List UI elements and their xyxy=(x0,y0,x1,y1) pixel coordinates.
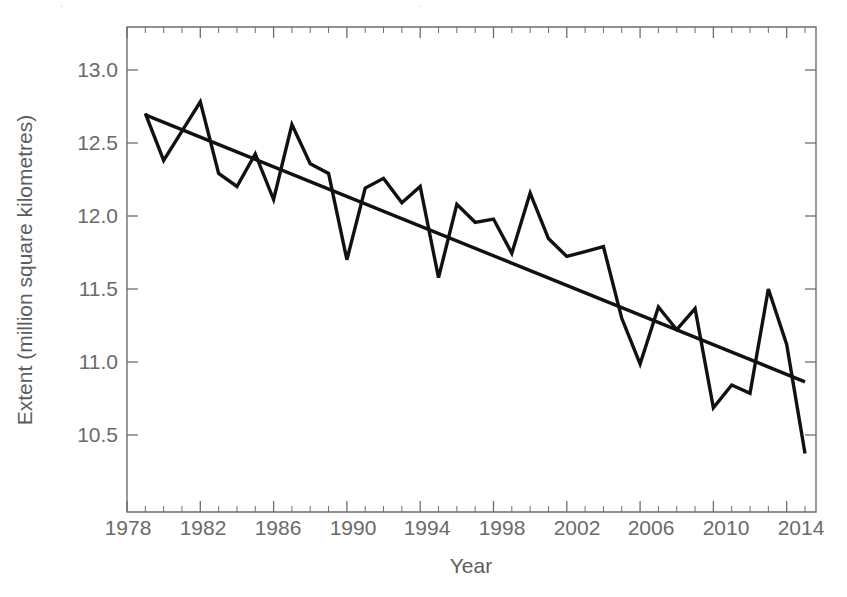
x-axis-tick-labels: 1978 1982 1986 1990 1994 1998 2002 2006 … xyxy=(105,516,825,539)
x-tick-label: 1978 xyxy=(105,516,152,539)
y-tick-label: 11.0 xyxy=(79,350,118,373)
y-tick-label: 12.0 xyxy=(77,204,118,227)
top-edge-artifact-2: . xyxy=(418,0,422,10)
top-edge-artifact: . xyxy=(60,0,64,10)
y-axis-title: Extent (million square kilometres) xyxy=(13,115,36,425)
x-tick-label: 2006 xyxy=(628,516,675,539)
y-tick-label: 10.5 xyxy=(77,423,118,446)
x-tick-label: 2010 xyxy=(703,516,750,539)
plot-frame xyxy=(127,27,816,512)
x-axis-minor-ticks xyxy=(145,27,805,512)
x-tick-label: 1986 xyxy=(255,516,302,539)
y-tick-label: 11.5 xyxy=(79,277,118,300)
x-tick-label: 2014 xyxy=(778,516,825,539)
x-tick-label: 1990 xyxy=(330,516,377,539)
x-tick-label: 1982 xyxy=(180,516,227,539)
x-axis-ticks xyxy=(127,27,787,512)
y-tick-label: 12.5 xyxy=(77,131,118,154)
x-tick-label: 2002 xyxy=(554,516,601,539)
y-axis-tick-labels: 13.0 12.5 12.0 11.5 11.0 10.5 xyxy=(77,58,118,446)
y-tick-label: 13.0 xyxy=(77,58,118,81)
trend-line xyxy=(145,115,805,382)
y-axis-ticks xyxy=(127,70,816,435)
x-axis-title: Year xyxy=(450,554,492,577)
x-tick-label: 1994 xyxy=(404,516,451,539)
sea-ice-extent-chart: . . 13.0 12.5 12.0 11.5 11.0 10.5 1978 1… xyxy=(0,0,847,597)
x-tick-label: 1998 xyxy=(479,516,526,539)
